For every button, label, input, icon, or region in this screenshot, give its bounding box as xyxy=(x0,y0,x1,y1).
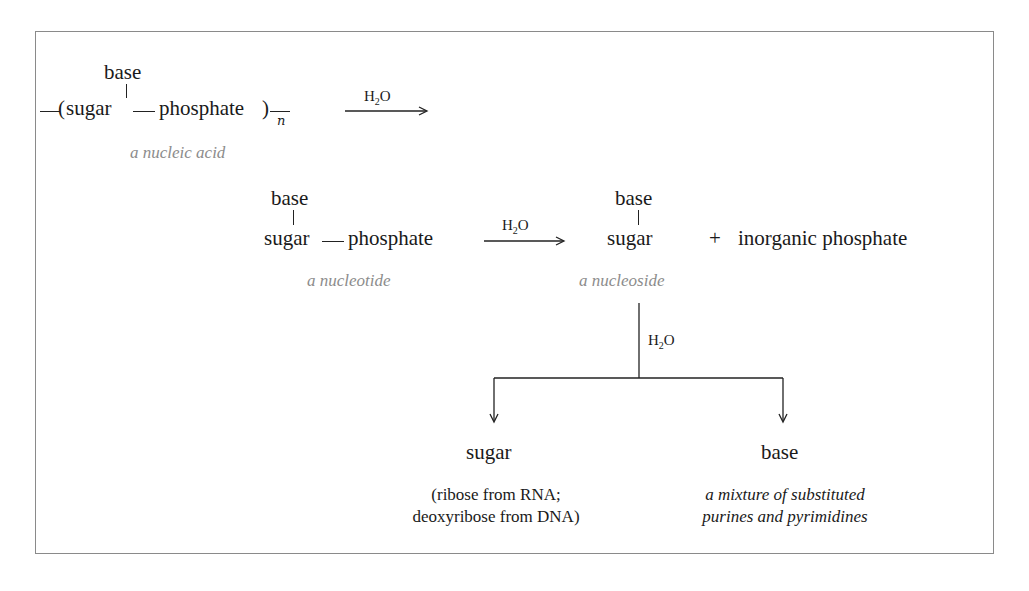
plus-sign: + xyxy=(709,226,721,251)
inorganic-phosphate: inorganic phosphate xyxy=(738,226,907,251)
nucleoside-sugar: sugar xyxy=(607,226,653,251)
reagent-sub: 2 xyxy=(513,225,518,236)
product-base-desc: a mixture of substituted purines and pyr… xyxy=(660,484,910,528)
arrow1-reagent: H2O xyxy=(364,88,391,105)
nucleic-acid-base-bond xyxy=(126,84,127,98)
reagent-h: H xyxy=(502,217,513,233)
nucleotide-sugar-phosphate-bond xyxy=(322,241,344,242)
reagent-h: H xyxy=(364,88,375,104)
nucleotide-label: a nucleotide xyxy=(307,271,391,291)
nucleotide-base-bond xyxy=(293,210,294,225)
reagent-o: O xyxy=(518,217,529,233)
nucleotide-sugar: sugar xyxy=(264,226,310,251)
nucleotide-base: base xyxy=(271,186,308,211)
nucleoside-base-bond xyxy=(638,210,639,225)
product-sugar: sugar xyxy=(466,440,512,465)
reagent-h: H xyxy=(648,332,659,348)
reagent-o: O xyxy=(380,88,391,104)
sugar-phosphate-bond xyxy=(133,111,155,112)
nucleic-acid-left-bond xyxy=(40,111,60,112)
nucleic-acid-base: base xyxy=(104,60,141,85)
reagent-o: O xyxy=(664,332,675,348)
product-sugar-desc: (ribose from RNA; deoxyribose from DNA) xyxy=(410,484,582,528)
arrow2-reagent: H2O xyxy=(502,217,529,234)
repeat-subscript-n: n xyxy=(277,113,285,128)
nucleic-acid-open-paren: ( xyxy=(58,96,65,121)
sugar-desc-line1: (ribose from RNA; xyxy=(410,484,582,506)
reagent-sub: 2 xyxy=(375,96,380,107)
nucleic-acid-sugar: sugar xyxy=(66,96,112,121)
reagent-sub: 2 xyxy=(659,340,664,351)
branch-reagent: H2O xyxy=(648,332,675,349)
nucleic-acid-label: a nucleic acid xyxy=(130,143,225,163)
sugar-desc-line2: deoxyribose from DNA) xyxy=(410,506,582,528)
product-base: base xyxy=(761,440,798,465)
nucleotide-phosphate: phosphate xyxy=(348,226,433,251)
nucleoside-base: base xyxy=(615,186,652,211)
nucleoside-label: a nucleoside xyxy=(579,271,664,291)
nucleic-acid-close-paren: ) xyxy=(262,96,269,121)
base-desc-line1: a mixture of substituted xyxy=(660,484,910,506)
base-desc-line2: purines and pyrimidines xyxy=(660,506,910,528)
nucleic-acid-phosphate: phosphate xyxy=(159,96,244,121)
